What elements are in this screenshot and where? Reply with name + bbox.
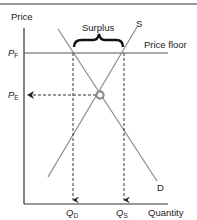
x-axis-label: Quantity <box>148 207 184 218</box>
price-floor-diagram: Price Quantity Price floor PF PE D S Sur… <box>0 0 197 220</box>
price-floor-axis-label: PF <box>8 47 18 59</box>
y-axis-label: Price <box>11 11 33 22</box>
surplus-label: Surplus <box>82 22 114 33</box>
surplus-brace <box>74 34 123 47</box>
demand-curve-label: D <box>157 182 164 193</box>
left-arrow-icon <box>27 91 34 99</box>
equilibrium-point <box>96 91 103 98</box>
supply-curve-label: S <box>136 18 142 29</box>
equilibrium-price-label: PE <box>8 89 19 101</box>
price-floor-label: Price floor <box>144 39 187 50</box>
quantity-demanded-label: QD <box>66 207 78 219</box>
quantity-supplied-label: QS <box>116 207 128 219</box>
